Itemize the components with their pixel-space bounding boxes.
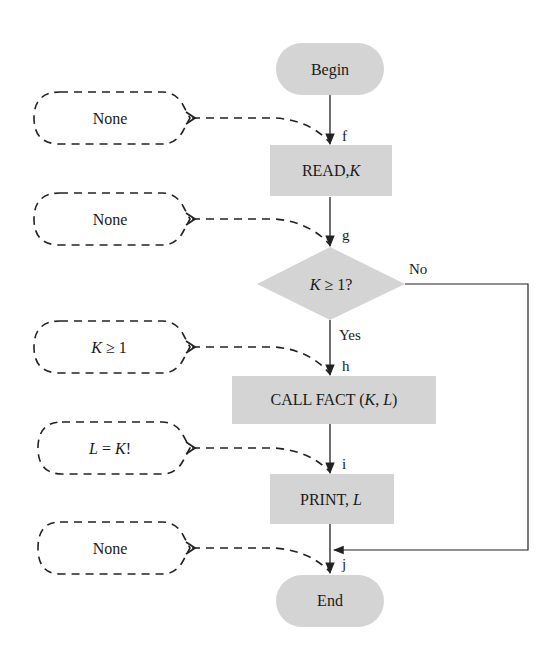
- svg-text:PRINT, L: PRINT, L: [300, 491, 362, 508]
- assertion-h-text: K ≥ 1: [90, 339, 126, 356]
- node-call-fact: CALL FACT (K, L): [232, 376, 436, 424]
- flowchart-canvas: Begin READ,K K ≥ 1? CALL FACT (K, L) PRI…: [0, 0, 557, 672]
- assertion-link-j: [192, 548, 330, 572]
- call-end: ): [392, 391, 397, 409]
- point-f-label: f: [342, 128, 347, 144]
- point-j-label: j: [341, 556, 346, 572]
- assertion-link-h: [192, 347, 330, 374]
- node-read: READ,K: [270, 145, 392, 196]
- svg-text:K ≥ 1?: K ≥ 1?: [309, 276, 353, 293]
- print-var: L: [352, 491, 362, 508]
- decision-label: ≥ 1?: [320, 276, 352, 293]
- node-decision: K ≥ 1?: [257, 247, 405, 320]
- assertion-i-var1: L: [88, 440, 98, 457]
- assertion-link-i: [192, 448, 330, 472]
- read-var: K: [348, 162, 361, 179]
- read-label: READ,: [302, 162, 350, 179]
- assertion-h-rest: ≥ 1: [102, 339, 127, 356]
- call-l: L: [382, 391, 392, 408]
- assertion-g-text: None: [93, 211, 128, 228]
- assertion-i-end: !: [126, 440, 131, 457]
- point-i-label: i: [342, 456, 346, 472]
- assertion-j-text: None: [93, 540, 128, 557]
- print-label: PRINT,: [300, 491, 353, 508]
- node-print: PRINT, L: [270, 474, 394, 524]
- call-sep: ,: [375, 391, 383, 408]
- assertion-i-mid: =: [98, 440, 115, 457]
- assertion-link-f: [192, 118, 330, 143]
- point-g-label: g: [342, 227, 350, 243]
- node-begin: Begin: [276, 43, 384, 95]
- branch-no-label: No: [409, 261, 427, 277]
- node-end: End: [276, 575, 384, 627]
- begin-label: Begin: [311, 61, 349, 79]
- assertion-link-g: [192, 219, 330, 245]
- point-h-label: h: [342, 358, 350, 374]
- end-label: End: [317, 592, 343, 609]
- svg-text:CALL FACT (K, L): CALL FACT (K, L): [271, 391, 398, 409]
- assertion-i-text: L = K!: [88, 440, 131, 457]
- branch-yes-label: Yes: [339, 327, 361, 343]
- svg-text:READ,K: READ,K: [302, 162, 362, 179]
- call-label: CALL FACT (: [271, 391, 365, 409]
- assertion-f-text: None: [93, 110, 128, 127]
